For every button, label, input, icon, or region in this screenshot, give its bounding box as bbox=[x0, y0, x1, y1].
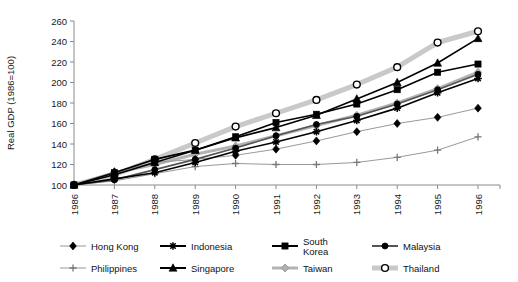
marker-star bbox=[272, 138, 280, 146]
marker-diamond bbox=[394, 120, 401, 128]
chart-canvas: 100120140160180200220240260 198619871988… bbox=[0, 0, 518, 282]
y-tick-label: 200 bbox=[51, 77, 67, 88]
y-tick-label: 180 bbox=[51, 98, 67, 109]
marker-circle-open bbox=[273, 110, 280, 117]
marker-plus bbox=[353, 159, 360, 166]
legend-label: Korea bbox=[303, 246, 329, 257]
legend-label: Singapore bbox=[191, 263, 234, 274]
marker-circle-open bbox=[232, 123, 239, 130]
y-axis: 100120140160180200220240260 bbox=[51, 16, 74, 191]
y-axis-title-label: Real GDP (1986=100) bbox=[5, 56, 16, 150]
marker-star bbox=[151, 169, 159, 177]
marker-plus bbox=[434, 147, 441, 154]
marker-star bbox=[232, 147, 240, 155]
marker-star bbox=[393, 104, 401, 112]
legend-label: Thailand bbox=[403, 263, 439, 274]
marker-triangle bbox=[434, 59, 442, 66]
legend-item-hong-kong[interactable]: Hong Kong bbox=[60, 241, 139, 252]
x-axis: 1986198719881989199019911992199319941995… bbox=[69, 185, 501, 215]
gdp-line-chart: 100120140160180200220240260 198619871988… bbox=[0, 0, 518, 282]
legend-item-south-korea[interactable]: SouthKorea bbox=[272, 236, 329, 257]
marker-square bbox=[475, 61, 481, 67]
marker-square bbox=[394, 87, 400, 93]
legend-label: Malaysia bbox=[403, 241, 441, 252]
marker-square bbox=[435, 69, 441, 75]
y-axis-title: Real GDP (1986=100) bbox=[5, 56, 16, 150]
marker-plus bbox=[232, 160, 239, 167]
marker-plus bbox=[69, 264, 76, 271]
legend-item-indonesia[interactable]: Indonesia bbox=[160, 241, 233, 252]
legend-item-singapore[interactable]: Singapore bbox=[160, 263, 234, 274]
marker-circle-filled bbox=[313, 122, 319, 128]
marker-diamond bbox=[353, 128, 360, 136]
y-tick-label: 220 bbox=[51, 57, 67, 68]
x-tick-label: 1991 bbox=[271, 194, 282, 215]
x-tick-label: 1994 bbox=[392, 194, 403, 215]
marker-star bbox=[434, 89, 442, 97]
y-tick-label: 260 bbox=[51, 16, 67, 27]
x-tick-label: 1996 bbox=[473, 194, 484, 215]
legend-label: Taiwan bbox=[303, 263, 333, 274]
marker-star bbox=[191, 159, 199, 167]
x-tick-label: 1989 bbox=[190, 194, 201, 215]
marker-diamond-grey bbox=[281, 264, 288, 272]
y-tick-label: 240 bbox=[51, 36, 67, 47]
y-tick-label: 160 bbox=[51, 118, 67, 129]
marker-diamond bbox=[434, 113, 441, 121]
marker-plus bbox=[272, 161, 279, 168]
legend-item-malaysia[interactable]: Malaysia bbox=[372, 241, 441, 252]
marker-triangle bbox=[474, 34, 482, 41]
marker-plus bbox=[394, 154, 401, 161]
marker-circle-open bbox=[382, 265, 389, 272]
marker-diamond bbox=[313, 137, 320, 145]
x-tick-label: 1988 bbox=[149, 194, 160, 215]
marker-diamond bbox=[475, 104, 482, 112]
legend-item-thailand[interactable]: Thailand bbox=[372, 263, 439, 274]
marker-star bbox=[353, 117, 361, 125]
marker-circle-filled bbox=[382, 243, 388, 249]
marker-star bbox=[474, 75, 482, 83]
y-tick-label: 140 bbox=[51, 139, 67, 150]
x-tick-label: 1986 bbox=[69, 194, 80, 215]
marker-circle-open bbox=[313, 97, 320, 104]
legend-label: Indonesia bbox=[191, 241, 233, 252]
marker-diamond bbox=[70, 242, 77, 250]
legend-label: Hong Kong bbox=[91, 241, 139, 252]
x-tick-label: 1993 bbox=[351, 194, 362, 215]
marker-circle-open bbox=[394, 64, 401, 71]
marker-diamond bbox=[273, 145, 280, 153]
y-tick-label: 100 bbox=[51, 180, 67, 191]
marker-plus bbox=[313, 161, 320, 168]
marker-star bbox=[169, 242, 177, 250]
x-tick-label: 1990 bbox=[230, 194, 241, 215]
x-tick-label: 1995 bbox=[432, 194, 443, 215]
marker-star bbox=[313, 128, 321, 136]
marker-plus bbox=[474, 133, 481, 140]
x-tick-label: 1987 bbox=[109, 194, 120, 215]
legend-item-taiwan[interactable]: Taiwan bbox=[272, 263, 333, 274]
marker-circle-open bbox=[434, 39, 441, 46]
series-layer bbox=[70, 28, 482, 189]
y-tick-label: 120 bbox=[51, 159, 67, 170]
chart-legend: Hong KongIndonesiaSouthKoreaMalaysiaPhil… bbox=[60, 236, 441, 274]
x-tick-label: 1992 bbox=[311, 194, 322, 215]
marker-circle-open bbox=[353, 81, 360, 88]
legend-label: Philippines bbox=[91, 263, 137, 274]
marker-circle-filled bbox=[273, 133, 279, 139]
legend-item-philippines[interactable]: Philippines bbox=[60, 263, 137, 274]
marker-square bbox=[282, 243, 288, 249]
